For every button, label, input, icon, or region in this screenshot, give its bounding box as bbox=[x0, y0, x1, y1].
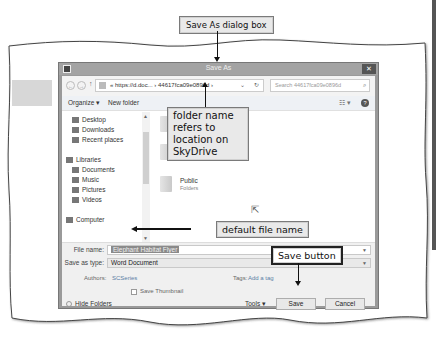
callout-save-as-dialog: Save As dialog box bbox=[179, 16, 274, 34]
file-name-dropdown-icon[interactable]: ▼ bbox=[362, 246, 367, 254]
hide-folders-button[interactable]: Hide Folders bbox=[66, 300, 112, 307]
title-bar: Save As ✕ bbox=[59, 63, 378, 75]
address-path: « https://d.doc... › 44617fca09e0896d › bbox=[110, 82, 213, 88]
save-type-label: Save as type: bbox=[62, 259, 104, 266]
mouse-pointer-icon: ⇱ bbox=[251, 204, 259, 215]
save-thumbnail-checkbox[interactable] bbox=[131, 289, 137, 295]
up-button[interactable]: ↑ bbox=[89, 80, 93, 87]
forward-button[interactable]: → bbox=[77, 81, 86, 90]
scroll-down-icon[interactable]: ▼ bbox=[143, 235, 148, 241]
search-input[interactable]: Search 44617fca09e0896d ⌕ bbox=[270, 79, 370, 92]
authors-value[interactable]: SCSeries bbox=[112, 275, 137, 281]
refresh-icon[interactable]: ↻ bbox=[254, 80, 259, 91]
scroll-thumb[interactable] bbox=[143, 132, 149, 184]
search-placeholder: Search 44617fca09e0896d bbox=[275, 82, 341, 88]
callout-line bbox=[205, 86, 206, 108]
back-button[interactable]: ← bbox=[66, 81, 75, 90]
tags-label: Tags: bbox=[233, 275, 247, 281]
computer-icon bbox=[66, 217, 73, 223]
authors-label: Authors: bbox=[84, 275, 106, 281]
callout-default-file-name: default file name bbox=[216, 221, 309, 238]
pictures-icon bbox=[72, 187, 79, 193]
callout-line bbox=[298, 263, 299, 282]
arrow-icon bbox=[295, 281, 301, 286]
save-type-value: Word Document bbox=[111, 259, 158, 266]
arrow-icon bbox=[131, 226, 137, 232]
cancel-button[interactable]: Cancel bbox=[325, 298, 365, 310]
new-folder-button[interactable]: New folder bbox=[108, 99, 139, 106]
navigation-pane: Desktop Downloads Recent places Librarie… bbox=[62, 112, 150, 242]
save-as-dialog: Save As ✕ ← → ↑ « https://d.doc... › 446… bbox=[58, 62, 379, 309]
address-bar[interactable]: « https://d.doc... › 44617fca09e0896d › … bbox=[95, 79, 264, 92]
search-icon: ⌕ bbox=[363, 80, 366, 91]
music-icon bbox=[72, 177, 79, 183]
dialog-footer: Hide Folders Tools ▾ Save Cancel bbox=[62, 296, 375, 314]
documents-icon bbox=[72, 167, 79, 173]
collapse-icon bbox=[66, 301, 72, 307]
folder-icon bbox=[99, 82, 106, 89]
scroll-up-icon[interactable]: ▲ bbox=[143, 113, 148, 119]
nav-item-documents[interactable]: Documents bbox=[72, 166, 115, 173]
nav-item-desktop[interactable]: Desktop bbox=[72, 116, 106, 123]
tools-menu[interactable]: Tools ▾ bbox=[245, 300, 266, 308]
nav-item-music[interactable]: Music bbox=[72, 176, 99, 183]
callout-line bbox=[217, 31, 218, 59]
tags-input[interactable]: Add a tag bbox=[248, 275, 274, 281]
close-button[interactable]: ✕ bbox=[362, 64, 376, 74]
save-thumbnail-label: Save Thumbnail bbox=[140, 288, 183, 294]
save-button[interactable]: Save bbox=[276, 298, 316, 310]
folder-type-public: Folders bbox=[180, 185, 198, 191]
dialog-title: Save As bbox=[59, 64, 378, 71]
arrow-icon bbox=[214, 57, 220, 62]
desktop-icon bbox=[72, 117, 79, 123]
address-dropdown-icon[interactable]: ⌄ bbox=[240, 80, 245, 91]
nav-item-recent-places[interactable]: Recent places bbox=[72, 136, 123, 143]
file-name-value: Elephant Habitat Flyer bbox=[111, 246, 179, 253]
background-strip bbox=[12, 80, 52, 106]
callout-line bbox=[135, 228, 191, 230]
save-type-dropdown-icon[interactable]: ▼ bbox=[362, 259, 367, 267]
libraries-icon bbox=[66, 157, 73, 163]
organize-button[interactable]: Organize ▾ bbox=[68, 99, 100, 107]
callout-save-button: Save button bbox=[271, 246, 343, 265]
arrow-icon bbox=[202, 82, 208, 87]
folder-icon bbox=[160, 176, 172, 192]
videos-icon bbox=[72, 197, 79, 203]
nav-item-videos[interactable]: Videos bbox=[72, 196, 102, 203]
folder-name-public[interactable]: Public bbox=[180, 177, 198, 184]
recent-places-icon bbox=[72, 137, 79, 143]
nav-item-computer[interactable]: Computer bbox=[66, 216, 105, 223]
file-name-label: File name: bbox=[62, 246, 104, 253]
nav-item-pictures[interactable]: Pictures bbox=[72, 186, 105, 193]
view-options-icon[interactable]: ☷ ▾ bbox=[339, 99, 351, 107]
callout-folder-name: folder name refers to location on SkyDri… bbox=[167, 107, 249, 161]
address-row: ← → ↑ « https://d.doc... › 44617fca09e08… bbox=[62, 76, 375, 96]
help-icon[interactable]: ? bbox=[361, 99, 369, 107]
downloads-icon bbox=[72, 127, 79, 133]
nav-scrollbar[interactable]: ▲ ▼ bbox=[142, 112, 150, 242]
nav-item-downloads[interactable]: Downloads bbox=[72, 126, 114, 133]
nav-item-libraries[interactable]: Libraries bbox=[66, 156, 101, 163]
